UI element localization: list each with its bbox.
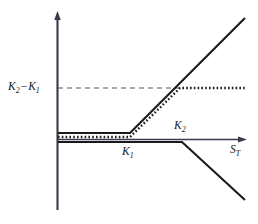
short-call-payoff-line (58, 142, 245, 200)
k2-subscript: 2 (182, 125, 186, 134)
payoff-diagram-figure: K2−K1 K1 K2 ST (0, 0, 258, 224)
k2-minus-k1-second-symbol: K (28, 80, 36, 92)
diagram-canvas (0, 0, 258, 224)
long-call-payoff-line (58, 18, 245, 133)
y-axis-arrow-icon (54, 11, 61, 20)
k1-symbol: K (122, 145, 130, 157)
x-axis-arrow-icon (238, 136, 247, 142)
k2-minus-k1-first-symbol: K (8, 80, 16, 92)
st-axis-label: ST (230, 144, 240, 158)
y-axis (54, 11, 61, 210)
k2-minus-k1-second-subscript: 1 (36, 86, 40, 95)
k1-subscript: 1 (130, 151, 134, 160)
k2-minus-k1-operator: − (20, 80, 29, 92)
k2-tick-label: K2 (174, 120, 186, 134)
k2-minus-k1-label: K2−K1 (8, 81, 40, 95)
st-subscript: T (236, 149, 240, 158)
k2-symbol: K (174, 119, 182, 131)
k1-tick-label: K1 (122, 146, 134, 160)
